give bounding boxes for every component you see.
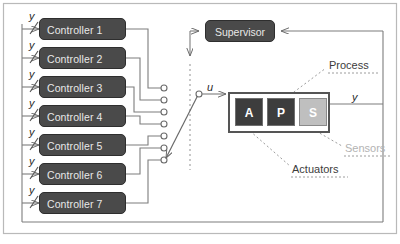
- controller-box-1[interactable]: Controller 1: [39, 18, 126, 40]
- controller-box-3[interactable]: Controller 3: [39, 76, 126, 98]
- process-unit-s[interactable]: S: [299, 98, 327, 126]
- controller-label-5: Controller 5: [47, 140, 102, 152]
- controller-box-4[interactable]: Controller 4: [39, 105, 126, 127]
- controller-label-4: Controller 4: [47, 111, 102, 123]
- input-signal-label-5: y: [29, 126, 35, 138]
- switch-contacts: [161, 85, 167, 163]
- input-signal-label-6: y: [29, 155, 35, 167]
- diagram-canvas: Controller 1 Controller 2 Controller 3 C…: [0, 0, 400, 244]
- process-annotation-label: Process: [329, 59, 369, 71]
- process-unit-p-label: P: [277, 106, 285, 120]
- process-unit-a[interactable]: A: [235, 98, 263, 126]
- controller-box-5[interactable]: Controller 5: [39, 134, 126, 156]
- controller-box-6[interactable]: Controller 6: [39, 163, 126, 185]
- process-unit-s-label: S: [309, 106, 317, 120]
- controller-box-7[interactable]: Controller 7: [39, 192, 126, 214]
- actuators-leader: [250, 131, 290, 166]
- supervisor-box[interactable]: Supervisor: [205, 20, 275, 42]
- controller-box-2[interactable]: Controller 2: [39, 47, 126, 69]
- control-input-signal-label: u: [207, 81, 213, 93]
- process-unit-a-label: A: [245, 106, 254, 120]
- process-leader: [290, 68, 326, 95]
- process-unit-p[interactable]: P: [267, 98, 295, 126]
- controller-label-7: Controller 7: [47, 198, 102, 210]
- controller-label-2: Controller 2: [47, 53, 102, 65]
- sensors-leader: [316, 131, 342, 146]
- input-signal-label-4: y: [29, 97, 35, 109]
- input-signal-label-7: y: [29, 184, 35, 196]
- input-signal-label-1: y: [29, 10, 35, 22]
- controller-label-6: Controller 6: [47, 169, 102, 181]
- output-signal-label: y: [352, 91, 358, 103]
- controller-label-3: Controller 3: [47, 82, 102, 94]
- actuators-annotation-label: Actuators: [292, 163, 338, 175]
- input-signal-label-3: y: [29, 68, 35, 80]
- switch-pivot-node: [196, 91, 202, 97]
- supervisor-label: Supervisor: [215, 26, 265, 38]
- sensors-annotation-label: Sensors: [345, 142, 385, 154]
- controller-input-arrows: [22, 29, 39, 203]
- input-signal-label-2: y: [29, 39, 35, 51]
- controller-output-lines: [126, 29, 161, 203]
- switch-blade: [166, 95, 198, 158]
- controller-label-1: Controller 1: [47, 24, 102, 36]
